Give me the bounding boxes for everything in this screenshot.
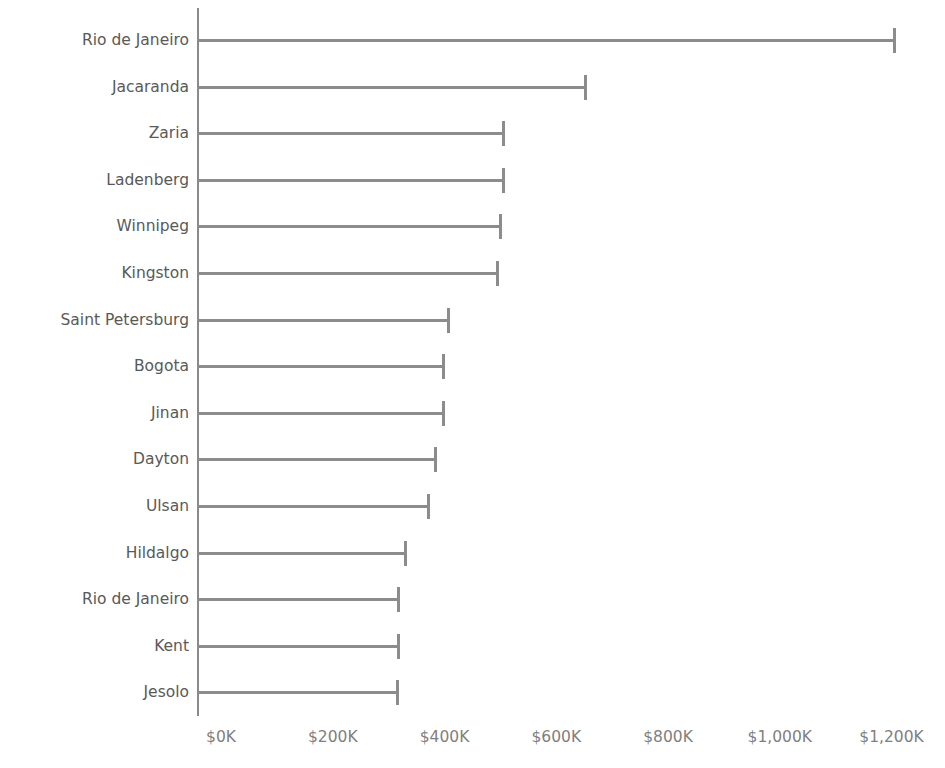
bar-line bbox=[197, 412, 445, 415]
bar bbox=[197, 412, 445, 415]
bar-line bbox=[197, 645, 400, 648]
plot-area: Rio de JaneiroJacarandaZariaLadenbergWin… bbox=[0, 0, 945, 768]
x-tick-label: $200K bbox=[308, 726, 358, 748]
bar-line bbox=[197, 225, 502, 228]
bar bbox=[197, 225, 502, 228]
bar bbox=[197, 86, 587, 89]
y-axis-line bbox=[197, 8, 199, 716]
category-label: Ulsan bbox=[146, 497, 189, 515]
bar-end-cap bbox=[404, 541, 407, 566]
bar bbox=[197, 691, 399, 694]
bar-line bbox=[197, 691, 399, 694]
x-tick-label: $800K bbox=[643, 726, 693, 748]
bar-end-cap bbox=[447, 308, 450, 333]
category-label: Rio de Janeiro bbox=[82, 590, 189, 608]
bar-line bbox=[197, 319, 450, 322]
bar-line bbox=[197, 179, 505, 182]
bar bbox=[197, 319, 450, 322]
category-label: Winnipeg bbox=[117, 217, 189, 235]
bar-line bbox=[197, 272, 499, 275]
bar-line bbox=[197, 458, 437, 461]
bar-end-cap bbox=[496, 261, 499, 286]
bar bbox=[197, 132, 505, 135]
x-axis-tick-labels: $0K$200K$400K$600K$800K$1,000K$1,200K bbox=[0, 726, 945, 752]
bar bbox=[197, 458, 437, 461]
category-label: Bogota bbox=[134, 357, 189, 375]
x-tick-label: $0K bbox=[206, 726, 236, 748]
bar bbox=[197, 505, 430, 508]
category-label: Saint Petersburg bbox=[61, 311, 189, 329]
bar-end-cap bbox=[502, 121, 505, 146]
bar-line bbox=[197, 552, 407, 555]
category-label: Kingston bbox=[121, 264, 189, 282]
bar-end-cap bbox=[427, 494, 430, 519]
bar-end-cap bbox=[499, 214, 502, 239]
category-label: Dayton bbox=[133, 450, 189, 468]
bar bbox=[197, 365, 445, 368]
bar-end-cap bbox=[396, 680, 399, 705]
category-label: Rio de Janeiro bbox=[82, 31, 189, 49]
bar-line bbox=[197, 365, 445, 368]
bar bbox=[197, 39, 896, 42]
bar-line bbox=[197, 132, 505, 135]
x-tick-label: $1,000K bbox=[748, 726, 812, 748]
category-label: Zaria bbox=[149, 124, 189, 142]
category-label: Jinan bbox=[151, 404, 189, 422]
x-tick-label: $600K bbox=[531, 726, 581, 748]
bar-line bbox=[197, 86, 587, 89]
x-tick-label: $1,200K bbox=[859, 726, 923, 748]
bar-line bbox=[197, 39, 896, 42]
bar-end-cap bbox=[434, 447, 437, 472]
bar-end-cap bbox=[397, 587, 400, 612]
category-label: Ladenberg bbox=[106, 171, 189, 189]
bar bbox=[197, 272, 499, 275]
bar bbox=[197, 598, 400, 601]
bar-line bbox=[197, 505, 430, 508]
bar bbox=[197, 645, 400, 648]
bar-end-cap bbox=[502, 168, 505, 193]
bar-end-cap bbox=[893, 28, 896, 53]
bar-line bbox=[197, 598, 400, 601]
bar-chart: Rio de JaneiroJacarandaZariaLadenbergWin… bbox=[0, 0, 945, 768]
category-label: Jesolo bbox=[144, 683, 189, 701]
bar-end-cap bbox=[442, 354, 445, 379]
bar-end-cap bbox=[397, 634, 400, 659]
bar-end-cap bbox=[442, 401, 445, 426]
x-tick-label: $400K bbox=[420, 726, 470, 748]
category-label: Jacaranda bbox=[112, 78, 189, 96]
category-label: Hildalgo bbox=[126, 544, 189, 562]
bar bbox=[197, 179, 505, 182]
bar bbox=[197, 552, 407, 555]
bar-end-cap bbox=[584, 75, 587, 100]
category-label: Kent bbox=[154, 637, 189, 655]
